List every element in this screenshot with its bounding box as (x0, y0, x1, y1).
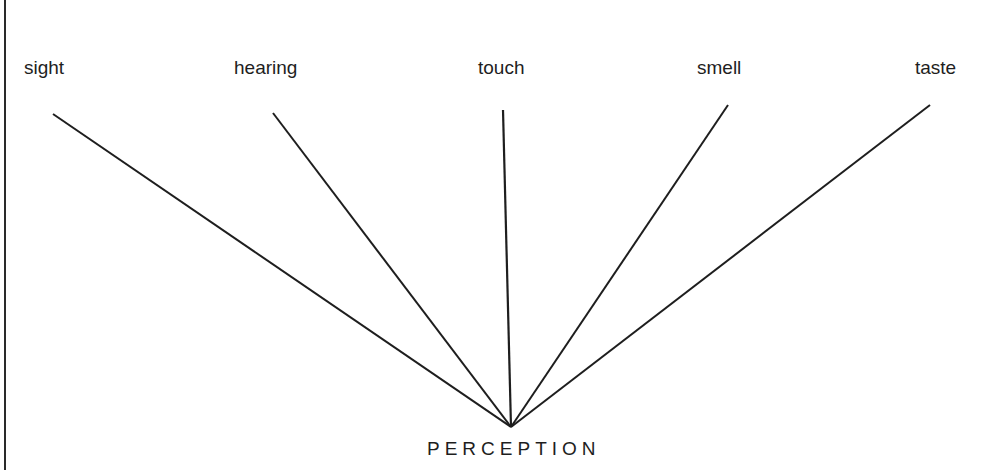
line-hearing (273, 113, 511, 427)
label-taste: taste (915, 57, 956, 79)
label-hearing: hearing (234, 57, 297, 79)
line-touch (503, 110, 511, 427)
line-smell (511, 105, 728, 427)
label-perception: PERCEPTION (427, 438, 601, 460)
label-smell: smell (697, 57, 741, 79)
line-sight (53, 114, 511, 427)
label-sight: sight (24, 57, 64, 79)
line-taste (511, 105, 930, 427)
label-touch: touch (478, 57, 524, 79)
